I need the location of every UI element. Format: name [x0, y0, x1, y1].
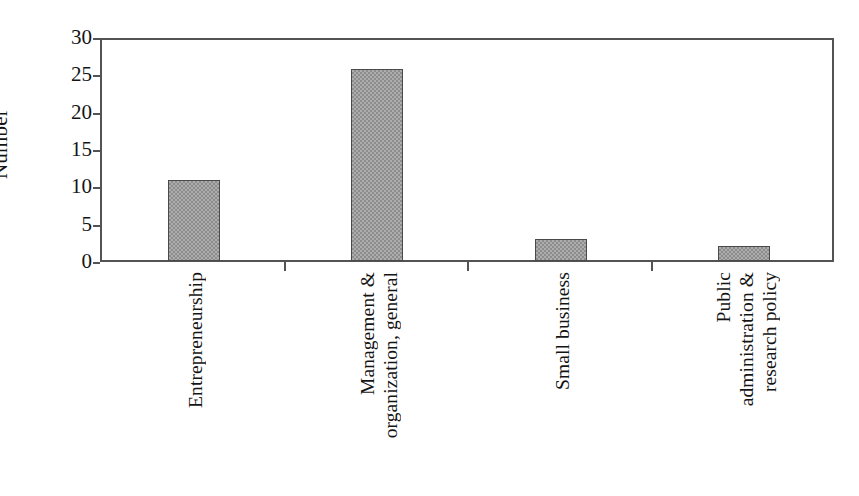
- y-axis-title: Number: [0, 84, 13, 204]
- y-tick-label: 30: [46, 27, 92, 48]
- y-tick-mark: [93, 113, 100, 115]
- bar-chart: Number 051015202530 EntrepreneurshipMana…: [0, 0, 859, 496]
- x-axis-category-label-line: Small business: [553, 272, 576, 390]
- bars-layer: [102, 40, 832, 261]
- y-tick-label: 5: [46, 214, 92, 235]
- x-axis-category-label-line: research policy: [760, 272, 783, 392]
- x-axis-category-label: Entrepreneurship: [186, 272, 209, 482]
- y-tick-mark: [93, 225, 100, 227]
- x-axis-category-label-line: administration &: [737, 272, 760, 406]
- y-tick-label: 25: [46, 64, 92, 85]
- y-tick-mark: [93, 262, 100, 264]
- x-axis-category-label: Publicadministration &research policy: [714, 272, 783, 482]
- y-tick-label: 10: [46, 176, 92, 197]
- bar: [168, 180, 220, 261]
- x-axis-category-label-line: Management &: [358, 272, 381, 395]
- y-tick-mark: [93, 38, 100, 40]
- y-tick-mark: [93, 187, 100, 189]
- x-tick-mark: [284, 262, 286, 271]
- y-tick-label: 0: [46, 251, 92, 272]
- x-tick-mark: [651, 262, 653, 271]
- x-axis-category-label-line: Public: [714, 272, 737, 322]
- x-axis-category-label-line: organization, general: [381, 272, 404, 438]
- x-axis-category-label-line: Entrepreneurship: [186, 272, 209, 408]
- y-tick-mark: [93, 75, 100, 77]
- bar: [718, 246, 770, 261]
- x-axis-category-label: Small business: [553, 272, 576, 482]
- y-tick-label: 15: [46, 139, 92, 160]
- x-axis-category-label: Management &organization, general: [358, 272, 404, 482]
- y-tick-label: 20: [46, 102, 92, 123]
- y-tick-mark: [93, 150, 100, 152]
- bar: [535, 239, 587, 261]
- x-tick-mark: [467, 262, 469, 271]
- bar: [351, 69, 403, 261]
